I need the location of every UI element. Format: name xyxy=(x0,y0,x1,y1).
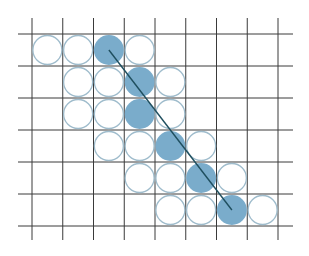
empty-pixel-circle xyxy=(187,196,216,225)
empty-pixel-circle xyxy=(94,100,123,129)
empty-pixel-circle xyxy=(94,132,123,161)
filled-pixel-circle xyxy=(155,131,185,161)
rasterization-diagram xyxy=(0,0,309,256)
filled-pixel-circle xyxy=(125,67,155,97)
empty-pixel-circle xyxy=(156,100,185,129)
empty-pixel-circle xyxy=(125,132,154,161)
empty-pixel-circle xyxy=(64,68,93,97)
empty-pixel-circle xyxy=(94,68,123,97)
empty-pixel-circle xyxy=(33,36,62,65)
empty-pixel-circle xyxy=(125,36,154,65)
empty-pixel-circle xyxy=(156,196,185,225)
empty-pixel-circle xyxy=(248,196,277,225)
pixel-grid-canvas xyxy=(0,0,309,256)
empty-pixel-circle xyxy=(125,164,154,193)
empty-pixel-circle xyxy=(217,164,246,193)
empty-pixel-circle xyxy=(64,100,93,129)
empty-pixel-circle xyxy=(64,36,93,65)
empty-pixel-circle xyxy=(156,68,185,97)
filled-pixel-circle xyxy=(186,163,216,193)
empty-pixel-circle xyxy=(156,164,185,193)
